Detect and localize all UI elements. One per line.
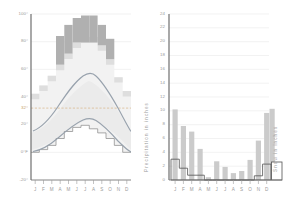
temperature-month-jun: J — [73, 188, 81, 193]
temperature-panel: 100° 80° 60° 40° 32° 20° 0°F -20° J F M … — [0, 0, 143, 207]
precip-bar-dec — [264, 113, 269, 180]
precip-month-sep: S — [238, 188, 246, 193]
precip-ytick-4: 4 — [147, 150, 165, 154]
precip-month-dec: D — [263, 188, 271, 193]
temperature-month-sep: S — [98, 188, 106, 193]
climate-figure: 100° 80° 60° 40° 32° 20° 0°F -20° J F M … — [0, 0, 285, 207]
temperature-month-jan: J — [31, 188, 39, 193]
precip-ytick-8: 8 — [147, 122, 165, 126]
precip-ytick-16: 16 — [147, 67, 165, 71]
temperature-ytick-40: 40° — [6, 95, 28, 99]
precip-ytick-14: 14 — [147, 81, 165, 85]
precip-month-apr: A — [196, 188, 204, 193]
precip-month-aug: A — [229, 188, 237, 193]
temperature-month-feb: F — [40, 188, 48, 193]
precip-ytick-2: 2 — [147, 164, 165, 168]
temperature-ytick-100: 100° — [6, 12, 28, 16]
precipitation-svg — [143, 0, 285, 207]
snow-axis-title: Snow in inches — [274, 126, 279, 172]
temperature-ytick-80: 80° — [6, 39, 28, 43]
temperature-x-ticks — [35, 180, 127, 184]
precip-bar-mar — [189, 132, 194, 180]
precip-month-jun: J — [213, 188, 221, 193]
precip-ytick-6: 6 — [147, 136, 165, 140]
precip-ytick-12: 12 — [147, 95, 165, 99]
temperature-month-aug: A — [90, 188, 98, 193]
precip-month-feb: F — [179, 188, 187, 193]
precipitation-plot — [143, 0, 285, 207]
temperature-ytick-0: 0°F — [6, 150, 28, 154]
precip-bar-nov — [256, 141, 261, 180]
temperature-month-apr: A — [56, 188, 64, 193]
precip-bar-sep — [239, 171, 244, 180]
temperature-bands — [31, 16, 131, 153]
temperature-svg — [0, 0, 143, 207]
precip-bar-feb — [181, 126, 186, 180]
precipitation-x-ticks — [175, 180, 267, 184]
precip-ytick-24: 24 — [147, 12, 165, 16]
precip-month-may: M — [204, 188, 212, 193]
precip-bar-jan — [173, 109, 178, 180]
precip-month-jul: J — [221, 188, 229, 193]
precip-ytick-20: 20 — [147, 39, 165, 43]
precip-bar-jun — [214, 161, 219, 180]
precip-bar-oct — [248, 160, 253, 180]
temperature-plot — [0, 0, 143, 207]
temperature-ytick-60: 60° — [6, 67, 28, 71]
temperature-month-dec: D — [123, 188, 131, 193]
temperature-month-nov: N — [115, 188, 123, 193]
temperature-month-may: M — [65, 188, 73, 193]
precip-month-nov: N — [254, 188, 262, 193]
precip-bar-jul — [223, 167, 228, 180]
precip-month-jan: J — [171, 188, 179, 193]
precip-ytick-22: 22 — [147, 25, 165, 29]
temperature-month-mar: M — [48, 188, 56, 193]
precip-ytick-0: 0 — [147, 178, 165, 182]
temperature-ytick-20: 20° — [6, 122, 28, 126]
precipitation-panel: 24 22 20 18 16 14 12 10 8 6 4 2 0 Precip… — [143, 0, 285, 207]
precip-bar-aug — [231, 173, 236, 180]
temperature-month-jul: J — [81, 188, 89, 193]
precip-month-mar: M — [188, 188, 196, 193]
temperature-ytick-minus20: -20° — [6, 178, 28, 182]
temperature-month-oct: O — [106, 188, 114, 193]
precip-ytick-10: 10 — [147, 108, 165, 112]
precip-month-oct: O — [246, 188, 254, 193]
precip-ytick-18: 18 — [147, 53, 165, 57]
temperature-ytick-32-freeze: 32° — [6, 106, 28, 110]
precipitation-axis-title: Precipitation in inches — [145, 102, 150, 172]
